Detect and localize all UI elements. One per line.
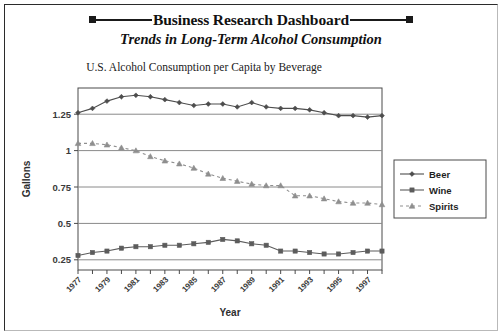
data-point-marker: [264, 243, 268, 247]
rule-left: [96, 19, 152, 21]
data-point-marker: [148, 245, 152, 249]
y-axis-tick-label: 1.25: [53, 109, 72, 120]
legend-label-spirits: Spirits: [429, 201, 459, 212]
legend-label-beer: Beer: [429, 169, 450, 180]
data-point-marker: [293, 249, 297, 253]
legend-label-wine: Wine: [429, 185, 452, 196]
data-point-marker: [221, 237, 225, 241]
data-point-marker: [119, 246, 123, 250]
data-point-marker: [163, 243, 167, 247]
page-title: Business Research Dashboard: [152, 12, 350, 28]
dashboard-page: Business Research Dashboard Trends in Lo…: [0, 0, 502, 335]
x-axis-title: Year: [219, 307, 240, 318]
data-point-marker: [90, 250, 94, 254]
rule-right: [350, 19, 406, 21]
y-axis-title: Gallons: [21, 160, 32, 197]
data-point-marker: [410, 188, 414, 192]
data-point-marker: [177, 243, 181, 247]
data-point-marker: [134, 245, 138, 249]
data-point-marker: [365, 249, 369, 253]
x-axis-tick-label: 1985: [180, 275, 199, 294]
x-axis-tick-label: 1977: [64, 275, 83, 294]
page-subtitle: Trends in Long-Term Alcohol Consumption: [0, 32, 502, 47]
chart-legend: BeerWineSpirits: [394, 160, 486, 218]
x-axis-tick-label: 1993: [296, 275, 315, 294]
x-axis-tick-label: 1983: [151, 275, 170, 294]
data-point-marker: [279, 249, 283, 253]
data-point-marker: [76, 253, 80, 257]
x-axis-tick-label: 1981: [122, 275, 141, 294]
data-point-marker: [235, 239, 239, 243]
square-marker-left-icon: [89, 16, 96, 23]
x-axis-tick-label: 1995: [325, 275, 344, 294]
line-chart: 0.250.50.7511.25Gallons19771979198119831…: [8, 62, 494, 324]
data-point-marker: [308, 250, 312, 254]
data-point-marker: [250, 242, 254, 246]
y-axis-tick-label: 0.75: [53, 182, 72, 193]
data-point-marker: [322, 252, 326, 256]
data-point-marker: [192, 242, 196, 246]
data-point-marker: [380, 249, 384, 253]
dashboard-header: Business Research Dashboard Trends in Lo…: [0, 12, 502, 46]
x-axis-tick-label: 1987: [209, 275, 228, 294]
data-point-marker: [336, 252, 340, 256]
y-axis-tick-label: 0.25: [53, 254, 72, 265]
data-point-marker: [351, 250, 355, 254]
x-axis-tick-label: 1979: [93, 275, 112, 294]
data-point-marker: [105, 249, 109, 253]
y-axis-tick-label: 1: [66, 145, 72, 156]
title-row: Business Research Dashboard: [0, 12, 502, 28]
chart-container: U.S. Alcohol Consumption per Capita by B…: [8, 62, 494, 324]
x-axis-tick-label: 1991: [267, 275, 286, 294]
data-point-marker: [206, 240, 210, 244]
y-axis-tick-label: 0.5: [58, 218, 72, 229]
x-axis-tick-label: 1997: [354, 275, 373, 294]
square-marker-right-icon: [406, 16, 413, 23]
x-axis-tick-label: 1989: [238, 275, 257, 294]
